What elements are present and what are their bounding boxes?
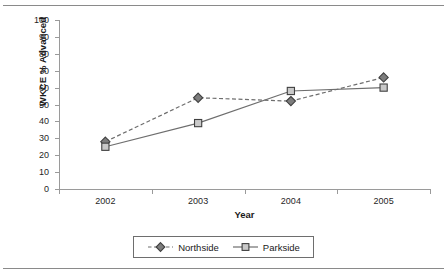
- bottom-divider-rule: [3, 268, 444, 269]
- x-tick-boundary: [430, 189, 431, 194]
- x-tick-boundary: [245, 189, 246, 194]
- data-point-northside-2005: [379, 73, 388, 82]
- y-tick-label: 80: [39, 49, 49, 59]
- y-tick-label: 20: [39, 150, 49, 160]
- legend-swatch-diamond-icon: [147, 241, 174, 253]
- y-tick-label: 10: [39, 167, 49, 177]
- y-tick-label: 70: [39, 66, 49, 76]
- data-point-northside-2003: [194, 93, 203, 102]
- y-tick-label: 50: [39, 100, 49, 110]
- data-point-parkside-2002: [102, 143, 109, 150]
- x-tick-label-2002: 2002: [59, 196, 152, 206]
- x-tick-boundary: [59, 189, 60, 194]
- x-tick-boundary: [337, 189, 338, 194]
- data-point-parkside-2003: [195, 119, 202, 126]
- y-tick-label: 90: [39, 32, 49, 42]
- data-point-parkside-2005: [380, 84, 387, 91]
- y-tick-label: 30: [39, 133, 49, 143]
- legend-label: Northside: [178, 242, 219, 253]
- x-tick-label-2004: 2004: [245, 196, 338, 206]
- x-tick-label-2005: 2005: [337, 196, 430, 206]
- legend-swatch-square-icon: [232, 241, 259, 253]
- series-line-parkside: [105, 88, 383, 147]
- chart-legend: NorthsideParkside: [133, 236, 314, 258]
- y-tick-label: 60: [39, 83, 49, 93]
- x-tick-boundary: [152, 189, 153, 194]
- x-tick-label-2003: 2003: [152, 196, 245, 206]
- legend-label: Parkside: [263, 242, 300, 253]
- plot-area: 0102030405060708090100 2002200320042005: [59, 20, 430, 189]
- y-tick-label: 0: [44, 184, 49, 194]
- legend-entry-northside[interactable]: Northside: [147, 241, 219, 253]
- x-axis-title: Year: [59, 209, 430, 220]
- series-plot: [59, 20, 430, 189]
- data-point-parkside-2004: [287, 87, 294, 94]
- top-divider-rule: [3, 5, 444, 6]
- y-tick-label: 40: [39, 116, 49, 126]
- legend-entry-parkside[interactable]: Parkside: [232, 241, 300, 253]
- y-tick-label: 100: [34, 15, 49, 25]
- line-chart-figure: WKCE % Advanced 0102030405060708090100 2…: [0, 8, 447, 266]
- series-line-northside: [105, 77, 383, 141]
- data-point-northside-2004: [286, 97, 295, 106]
